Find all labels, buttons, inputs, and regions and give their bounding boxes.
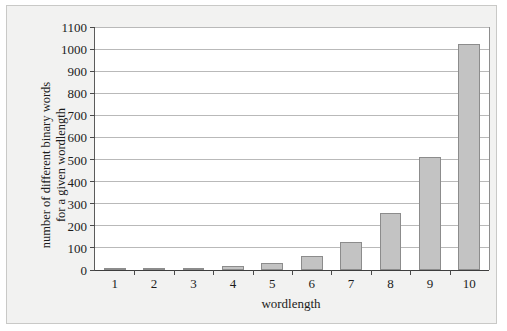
- y-axis-tick: [90, 181, 95, 182]
- bar: [458, 44, 480, 270]
- y-axis-title-line-2: for a given wordlength: [55, 43, 70, 286]
- x-axis-tick-label: 6: [308, 277, 315, 290]
- gridline: [95, 115, 489, 116]
- y-axis-tick-label: 700: [68, 109, 88, 122]
- x-axis-tick: [213, 270, 214, 275]
- plot-area: 0100200300400500600700800900100011001234…: [94, 27, 489, 271]
- bar: [143, 268, 165, 271]
- y-axis-tick: [90, 270, 95, 271]
- x-axis-tick-label: 7: [348, 277, 355, 290]
- x-axis-tick-label: 9: [427, 277, 434, 290]
- y-axis-tick-label: 1100: [61, 21, 87, 34]
- gridline: [95, 27, 489, 28]
- x-axis-tick: [134, 270, 135, 275]
- y-axis-tick: [90, 93, 95, 94]
- y-axis-tick-label: 400: [68, 175, 88, 188]
- bar: [419, 157, 441, 270]
- bar: [261, 263, 283, 270]
- x-axis-tick-label: 2: [151, 277, 158, 290]
- x-axis-title: wordlength: [94, 296, 488, 312]
- y-axis-tick-label: 500: [68, 153, 88, 166]
- x-axis-tick-label: 1: [111, 277, 118, 290]
- x-axis-tick: [331, 270, 332, 275]
- bar: [301, 256, 323, 270]
- plot-inner: 0100200300400500600700800900100011001234…: [95, 27, 489, 270]
- bar: [222, 266, 244, 270]
- x-axis-tick: [174, 270, 175, 275]
- y-axis-tick-label: 200: [68, 219, 88, 232]
- y-axis-title: number of different binary words for a g…: [39, 43, 70, 286]
- x-axis-tick: [410, 270, 411, 275]
- bar: [340, 242, 362, 270]
- gridline: [95, 49, 489, 50]
- x-axis-tick-label: 8: [387, 277, 394, 290]
- y-axis-tick: [90, 137, 95, 138]
- x-axis-tick: [253, 270, 254, 275]
- y-axis-tick-label: 900: [68, 65, 88, 78]
- y-axis-tick: [90, 27, 95, 28]
- plot-frame-right-edge: [489, 27, 490, 270]
- y-axis-tick-label: 0: [81, 264, 88, 277]
- x-axis-tick-label: 4: [230, 277, 237, 290]
- bar: [380, 213, 402, 270]
- x-axis-tick: [371, 270, 372, 275]
- y-axis-tick: [90, 49, 95, 50]
- y-axis-tick-label: 800: [68, 87, 88, 100]
- y-axis-tick: [90, 247, 95, 248]
- y-axis-tick: [90, 203, 95, 204]
- y-axis-tick-label: 300: [68, 197, 88, 210]
- y-axis-tick: [90, 71, 95, 72]
- y-axis-title-line-1: number of different binary words: [39, 81, 53, 247]
- bar: [183, 268, 205, 271]
- x-axis-tick-label: 5: [269, 277, 276, 290]
- y-axis-tick: [90, 115, 95, 116]
- bar: [104, 268, 126, 271]
- y-axis-tick: [90, 225, 95, 226]
- x-axis-tick: [450, 270, 451, 275]
- gridline: [95, 71, 489, 72]
- x-axis-tick-label: 3: [190, 277, 197, 290]
- x-axis-tick-label: 10: [463, 277, 476, 290]
- gridline: [95, 93, 489, 94]
- chart-figure: 0100200300400500600700800900100011001234…: [6, 5, 497, 324]
- y-axis-tick-label: 600: [68, 131, 88, 144]
- x-axis-tick: [292, 270, 293, 275]
- gridline: [95, 137, 489, 138]
- y-axis-tick-label: 100: [68, 241, 88, 254]
- y-axis-tick: [90, 159, 95, 160]
